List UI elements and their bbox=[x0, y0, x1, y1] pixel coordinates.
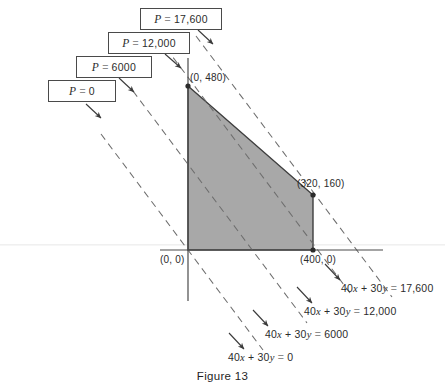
feasible-region-polygon bbox=[188, 86, 313, 250]
vertex-dot-320-160 bbox=[310, 192, 315, 197]
objective-variable-symbol: P bbox=[69, 85, 76, 97]
objective-equals-symbol: = bbox=[79, 85, 85, 97]
equation-x-symbol: x bbox=[277, 329, 282, 340]
vertex-label-320-160: (320, 160) bbox=[297, 178, 345, 189]
objective-value-box-17600: P = 17,600 bbox=[140, 8, 222, 30]
equation-x-symbol: x bbox=[240, 352, 245, 363]
equation-rhs-value: 17,600 bbox=[400, 282, 433, 294]
equation-coefficient-b: 30 bbox=[258, 351, 270, 363]
leader-arrow-eq-6000 bbox=[253, 310, 268, 326]
equation-coefficient-a: 40 bbox=[265, 328, 277, 340]
objective-value-text: 12,000 bbox=[142, 37, 176, 49]
vertex-dot-0-480 bbox=[185, 83, 190, 88]
equation-rhs-value: 0 bbox=[287, 351, 293, 363]
vertex-label-0-480: (0, 480) bbox=[190, 72, 226, 83]
equation-coefficient-a: 40 bbox=[341, 282, 353, 294]
figure-13-container: P = 17,600 P = 12,000 P = 6000 P = 0 (0,… bbox=[0, 0, 445, 390]
objective-equals-symbol: = bbox=[102, 61, 108, 73]
equation-y-symbol: y bbox=[346, 306, 351, 317]
objective-equals-symbol: = bbox=[132, 37, 138, 49]
equation-equals-symbol: = bbox=[391, 282, 397, 294]
equation-coefficient-b: 30 bbox=[334, 305, 346, 317]
equation-equals-symbol: = bbox=[315, 328, 321, 340]
equation-plus-symbol: + bbox=[285, 328, 291, 340]
equation-label-12000: 40x + 30y = 12,000 bbox=[304, 305, 396, 317]
equation-y-symbol: y bbox=[307, 329, 312, 340]
equation-coefficient-a: 40 bbox=[304, 305, 316, 317]
objective-value-text: 17,600 bbox=[174, 13, 208, 25]
equation-equals-symbol: = bbox=[354, 305, 360, 317]
equation-coefficient-b: 30 bbox=[371, 282, 383, 294]
objective-variable-symbol: P bbox=[122, 37, 129, 49]
objective-equals-symbol: = bbox=[164, 13, 170, 25]
leader-arrow-eq-12000 bbox=[297, 287, 312, 303]
figure-caption: Figure 13 bbox=[0, 370, 445, 382]
equation-x-symbol: x bbox=[316, 306, 321, 317]
leader-arrow-p-12000 bbox=[165, 54, 181, 68]
equation-equals-symbol: = bbox=[278, 351, 284, 363]
equation-coefficient-b: 30 bbox=[295, 328, 307, 340]
equation-plus-symbol: + bbox=[361, 282, 367, 294]
objective-value-text: 6000 bbox=[112, 61, 137, 73]
equation-y-symbol: y bbox=[270, 352, 275, 363]
equation-plus-symbol: + bbox=[324, 305, 330, 317]
objective-value-text: 0 bbox=[89, 85, 95, 97]
objective-value-box-12000: P = 12,000 bbox=[108, 32, 190, 54]
objective-value-box-0: P = 0 bbox=[48, 80, 116, 102]
leader-arrow-p-17600 bbox=[198, 30, 213, 44]
vertex-label-0-0: (0, 0) bbox=[160, 254, 185, 265]
equation-label-6000: 40x + 30y = 6000 bbox=[265, 328, 348, 340]
equation-plus-symbol: + bbox=[248, 351, 254, 363]
leader-arrow-p-6000 bbox=[119, 78, 134, 92]
equation-rhs-value: 12,000 bbox=[363, 305, 396, 317]
equation-coefficient-a: 40 bbox=[228, 351, 240, 363]
objective-value-box-6000: P = 6000 bbox=[76, 56, 152, 78]
objective-variable-symbol: P bbox=[92, 61, 99, 73]
objective-variable-symbol: P bbox=[154, 13, 161, 25]
equation-label-0: 40x + 30y = 0 bbox=[228, 351, 293, 363]
plot-canvas bbox=[0, 0, 445, 390]
vertex-label-400-0: (400, 0) bbox=[300, 254, 336, 265]
equation-y-symbol: y bbox=[383, 283, 388, 294]
leader-arrow-eq-17600 bbox=[325, 264, 340, 280]
leader-arrow-p-0 bbox=[86, 104, 101, 118]
equation-x-symbol: x bbox=[353, 283, 358, 294]
equation-rhs-value: 6000 bbox=[324, 328, 348, 340]
equation-label-17600: 40x + 30y = 17,600 bbox=[341, 282, 433, 294]
vertex-dot-400-0 bbox=[310, 247, 315, 252]
leader-arrow-eq-0 bbox=[229, 333, 244, 349]
